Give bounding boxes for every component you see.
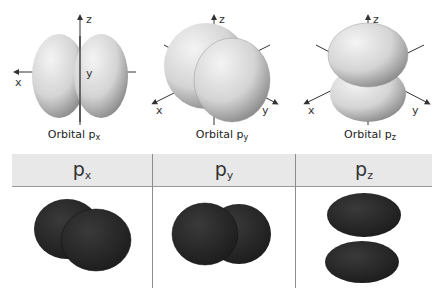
x-axis-label: x — [308, 104, 315, 117]
pz-dark-orbital — [296, 187, 432, 287]
table-header: px py pz — [12, 154, 432, 187]
orbital-px-caption: Orbital px — [0, 128, 148, 142]
orbital-py-caption: Orbital py — [148, 128, 296, 142]
z-axis-label: z — [86, 13, 92, 26]
px-dark-orbital — [12, 187, 152, 287]
lobe-front — [194, 38, 270, 122]
orbital-px-diagram: z x y Orbital px — [0, 0, 148, 150]
header-px: px — [12, 154, 152, 186]
header-pz: pz — [296, 154, 432, 186]
lobe-top — [328, 23, 408, 87]
header-py: py — [153, 154, 295, 186]
y-axis-label: y — [86, 67, 93, 80]
z-axis-label: z — [219, 13, 225, 26]
lobe-right — [74, 34, 128, 118]
y-axis-label: y — [262, 104, 269, 117]
py-dark-orbital — [153, 187, 295, 287]
z-axis-label: z — [373, 13, 379, 26]
orbital-pz-diagram: z x y Orbital pz — [296, 0, 444, 150]
x-axis-label: x — [15, 76, 22, 89]
orbital-table: px py pz — [12, 154, 444, 290]
orbital-py-diagram: z x y Orbital py — [148, 0, 296, 150]
y-axis-label: y — [412, 104, 419, 117]
orbital-pz-caption: Orbital pz — [296, 128, 444, 142]
x-axis-label: x — [156, 104, 163, 117]
